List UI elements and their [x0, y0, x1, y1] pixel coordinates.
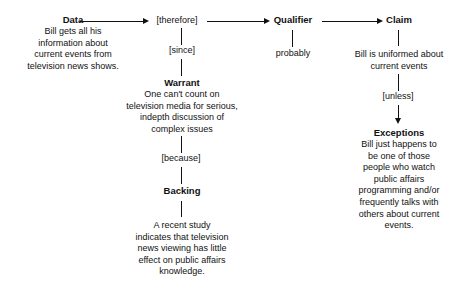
node-warrant-body: One can't count on television media for … — [106, 89, 258, 135]
node-warrant-line-2: television media for serious, — [106, 101, 258, 113]
node-claim-line-1: Bill is uniformed about — [341, 49, 457, 61]
node-exceptions-heading: Exceptions — [341, 127, 457, 139]
connector-label-since: [since] — [151, 45, 213, 56]
node-warrant-heading: Warrant — [106, 77, 258, 89]
node-backing-line-2: indicates that television — [106, 232, 258, 244]
node-claim-heading-block: Claim — [341, 14, 457, 26]
node-data-body: Bill gets all his information about curr… — [0, 26, 146, 72]
node-claim-body: Bill is uniformed about current events — [341, 49, 457, 72]
node-data-line-1: Bill gets all his — [0, 26, 146, 38]
node-claim-heading: Claim — [341, 14, 457, 26]
node-qualifier-value: probably — [249, 48, 337, 59]
line-qualifier-to-probably — [292, 30, 293, 47]
node-data-line-4: television news shows. — [0, 61, 146, 73]
line-unless-to-exceptions-head — [395, 118, 401, 124]
node-qualifier: Qualifier — [249, 14, 337, 26]
node-claim-line-2: current events — [341, 61, 457, 73]
line-warrant-to-because — [181, 136, 182, 153]
connector-label-because: [because] — [150, 153, 212, 164]
node-exceptions-line-3: people who watch — [341, 162, 457, 174]
node-warrant-line-3: indepth discussion of — [106, 112, 258, 124]
line-because-to-backing — [181, 167, 182, 184]
node-qualifier-heading: Qualifier — [249, 14, 337, 26]
line-claim-to-unless — [398, 74, 399, 91]
node-exceptions-line-6: frequently talks with — [341, 197, 457, 209]
node-backing-heading: Backing — [121, 185, 243, 197]
node-backing-line-4: effect on public affairs — [106, 255, 258, 267]
node-backing-body: A recent study indicates that television… — [106, 220, 258, 278]
node-backing-line-1: A recent study — [106, 220, 258, 232]
node-exceptions-body: Bill just happens to be one of those peo… — [341, 139, 457, 232]
node-warrant-line-1: One can't count on — [106, 89, 258, 101]
node-warrant: Warrant One can't count on television me… — [106, 77, 258, 135]
connector-label-therefore: [therefore] — [146, 15, 208, 26]
node-data-line-2: information about — [0, 38, 146, 50]
node-backing-line-3: news viewing has little — [106, 243, 258, 255]
line-backing-heading-to-body — [181, 201, 182, 217]
node-backing-body-block: A recent study indicates that television… — [106, 220, 258, 278]
node-exceptions-line-2: be one of those — [341, 151, 457, 163]
line-therefore-to-since — [181, 28, 182, 45]
node-exceptions-line-5: programming and/or — [341, 185, 457, 197]
node-backing-heading-block: Backing — [121, 185, 243, 197]
node-data-heading: Data — [0, 14, 146, 26]
line-claim-heading-to-body — [398, 30, 399, 46]
node-claim-body-block: Bill is uniformed about current events — [341, 49, 457, 72]
node-exceptions: Exceptions Bill just happens to be one o… — [341, 127, 457, 232]
node-warrant-line-4: complex issues — [106, 124, 258, 136]
toulmin-argument-diagram: Data Bill gets all his information about… — [0, 0, 457, 301]
line-unless-to-exceptions — [398, 105, 399, 119]
line-since-to-warrant — [181, 59, 182, 76]
node-exceptions-line-1: Bill just happens to — [341, 139, 457, 151]
node-exceptions-line-8: events. — [341, 220, 457, 232]
node-backing-line-5: knowledge. — [106, 266, 258, 278]
node-data-line-3: current events from — [0, 49, 146, 61]
node-data: Data Bill gets all his information about… — [0, 14, 146, 72]
node-exceptions-line-4: public affairs — [341, 174, 457, 186]
node-exceptions-line-7: others about current — [341, 209, 457, 221]
connector-label-unless: [unless] — [367, 91, 429, 102]
